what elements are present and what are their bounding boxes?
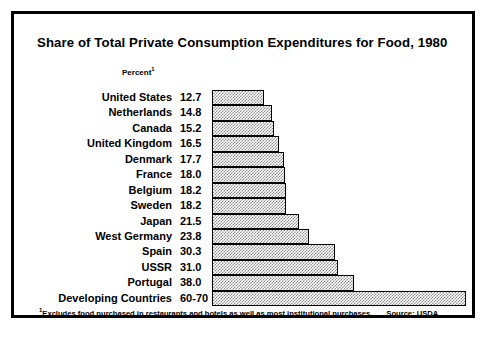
bar-value: 60-70: [180, 292, 208, 304]
table-row: Developing Countries60-70: [14, 291, 491, 306]
table-row: Portugal38.0: [14, 275, 491, 290]
bar-label: Netherlands: [108, 106, 172, 118]
table-row: France18.0: [14, 167, 491, 182]
footnote-source: Source: USDA: [386, 309, 438, 318]
bar-value: 30.3: [180, 245, 201, 257]
bar-label: Developing Countries: [58, 292, 172, 304]
bar-value: 14.8: [180, 106, 201, 118]
bar-label: Canada: [132, 122, 172, 134]
bar: [212, 229, 309, 244]
bar: [212, 244, 335, 259]
bar-value: 16.5: [180, 137, 201, 149]
bar-label: West Germany: [95, 230, 172, 242]
bar-label: Denmark: [125, 153, 172, 165]
axis-header-footnote-marker: 1: [151, 66, 154, 72]
bar-label: United States: [102, 91, 172, 103]
bar-label: Spain: [142, 245, 172, 257]
bar: [212, 90, 264, 105]
bar: [212, 167, 285, 182]
axis-header-label: Percent: [122, 68, 151, 77]
bar: [212, 214, 299, 229]
bar-value: 18.0: [180, 168, 201, 180]
bar: [212, 152, 284, 167]
page-title: Share of Total Private Consumption Expen…: [37, 35, 481, 50]
bar-value: 12.7: [180, 91, 201, 103]
bar: [212, 291, 466, 306]
table-row: Sweden18.2: [14, 198, 491, 213]
axis-header: Percent1: [122, 68, 155, 77]
bar-label: USSR: [141, 261, 172, 273]
bar: [212, 198, 286, 213]
footnote: 1Excludes food purchased in restaurants …: [39, 309, 479, 318]
table-row: West Germany23.8: [14, 229, 491, 244]
table-row: USSR31.0: [14, 260, 491, 275]
table-row: Belgium18.2: [14, 183, 491, 198]
table-row: Denmark17.7: [14, 152, 491, 167]
bar-label: Belgium: [129, 184, 172, 196]
bar: [212, 260, 338, 275]
bar: [212, 136, 279, 151]
footnote-text: Excludes food purchased in restaurants a…: [42, 309, 372, 318]
bar-value: 18.2: [180, 199, 201, 211]
bar-value: 21.5: [180, 215, 201, 227]
table-row: Japan21.5: [14, 214, 491, 229]
table-row: United States12.7: [14, 90, 491, 105]
bar-value: 17.7: [180, 153, 201, 165]
bar-rows: United States12.7Netherlands14.8Canada15…: [14, 90, 491, 306]
bar-value: 38.0: [180, 276, 201, 288]
table-row: Spain30.3: [14, 244, 491, 259]
chart-figure: Share of Total Private Consumption Expen…: [0, 0, 491, 337]
table-row: Netherlands14.8: [14, 105, 491, 120]
table-row: United Kingdom16.5: [14, 136, 491, 151]
bar-label: Portugal: [127, 276, 172, 288]
bar: [212, 121, 274, 136]
bar-value: 18.2: [180, 184, 201, 196]
bar-label: Sweden: [130, 199, 172, 211]
bar-value: 23.8: [180, 230, 201, 242]
bar-value: 15.2: [180, 122, 201, 134]
table-row: Canada15.2: [14, 121, 491, 136]
bar-label: United Kingdom: [87, 137, 172, 149]
bar-label: France: [136, 168, 172, 180]
bar: [212, 105, 272, 120]
chart-frame: Share of Total Private Consumption Expen…: [11, 11, 475, 318]
bar: [212, 275, 354, 290]
bar-value: 31.0: [180, 261, 201, 273]
bar-label: Japan: [140, 215, 172, 227]
bar: [212, 183, 286, 198]
